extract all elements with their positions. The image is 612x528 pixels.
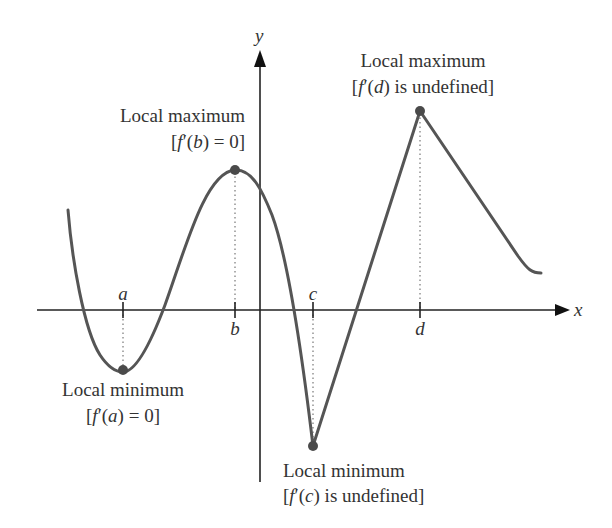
point-a-local-min — [118, 365, 128, 375]
annotation-d-title: Local maximum — [360, 50, 485, 71]
annotation-c-title: Local minimum — [283, 460, 405, 481]
tick-label-b: b — [230, 318, 240, 339]
point-c-local-min — [308, 441, 318, 451]
tick-label-d: d — [415, 318, 425, 339]
tick-label-c: c — [309, 283, 318, 304]
annotation-b-title: Local maximum — [120, 105, 245, 126]
annotation-d-condition: [f′(d) is undefined] — [352, 76, 494, 98]
y-axis-arrow-icon — [254, 50, 266, 67]
y-axis-label: y — [253, 25, 264, 46]
annotation-c: Local minimum [f′(c) is undefined] — [283, 460, 424, 507]
tick-label-a: a — [118, 283, 128, 304]
annotation-b: Local maximum [f′(b) = 0] — [120, 105, 245, 153]
annotation-c-condition: [f′(c) is undefined] — [283, 485, 424, 507]
function-extrema-diagram: x y a b c d Local maximum [f′(b) = 0] Lo… — [0, 0, 612, 528]
annotation-a: Local minimum [f′(a) = 0] — [62, 379, 184, 427]
point-d-local-max — [415, 106, 425, 116]
annotation-d: Local maximum [f′(d) is undefined] — [352, 50, 494, 98]
point-b-local-max — [230, 165, 240, 175]
annotation-b-condition: [f′(b) = 0] — [171, 131, 245, 153]
x-axis-label: x — [573, 299, 583, 320]
x-axis-arrow-icon — [555, 304, 570, 316]
annotation-a-condition: [f′(a) = 0] — [86, 405, 160, 427]
annotation-a-title: Local minimum — [62, 379, 184, 400]
